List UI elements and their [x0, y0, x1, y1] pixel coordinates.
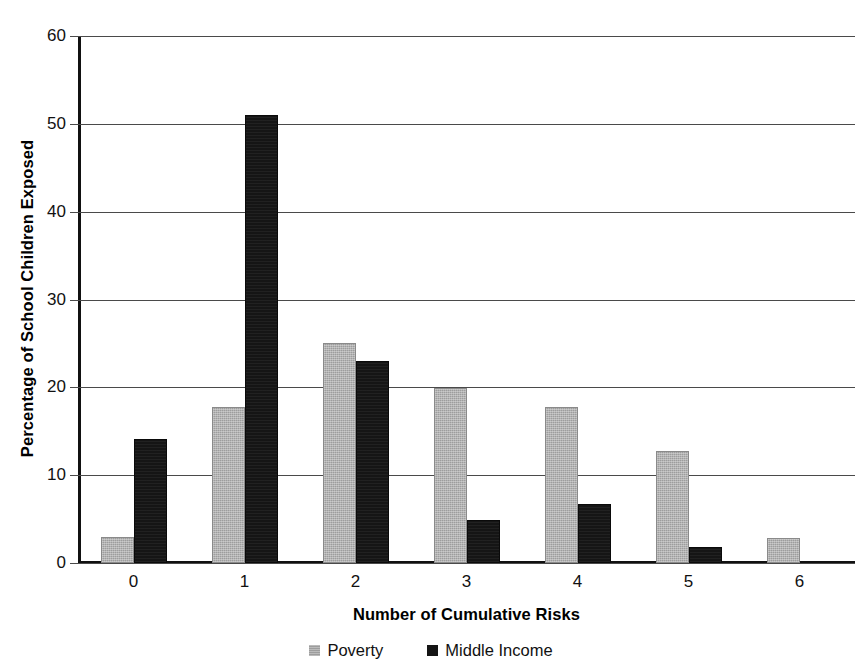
chart-title [0, 0, 862, 3]
bar-middle-income-1 [245, 115, 278, 563]
gridline-40 [78, 212, 855, 213]
bar-middle-income-5 [689, 547, 722, 563]
gridline-50 [78, 124, 855, 125]
y-tick-label-40: 40 [14, 203, 66, 220]
chart-legend: PovertyMiddle Income [0, 641, 862, 659]
y-axis-ticks: 6050403020100 [0, 0, 66, 668]
y-tick-label-20: 20 [14, 378, 66, 395]
x-tick-label-4: 4 [548, 572, 608, 592]
bar-poverty-4 [545, 407, 578, 563]
bar-middle-income-3 [467, 520, 500, 563]
gridline-30 [78, 300, 855, 301]
bar-poverty-5 [656, 451, 689, 563]
bar-poverty-3 [434, 388, 467, 563]
middle-income-swatch-icon [427, 645, 438, 656]
x-tick-label-6: 6 [770, 572, 830, 592]
y-tick-label-30: 30 [14, 291, 66, 308]
legend-label: Poverty [327, 641, 383, 659]
bar-middle-income-0 [134, 439, 167, 563]
legend-item-poverty[interactable]: Poverty [309, 641, 383, 659]
y-tick-label-50: 50 [14, 115, 66, 132]
y-tick-label-0: 0 [14, 554, 66, 571]
bar-poverty-2 [323, 343, 356, 563]
x-axis-title: Number of Cumulative Risks [78, 605, 855, 624]
bar-poverty-6 [767, 538, 800, 563]
bar-poverty-0 [101, 537, 134, 563]
gridline-60 [78, 36, 855, 37]
y-tick-label-10: 10 [14, 466, 66, 483]
gridline-10 [78, 475, 855, 476]
gridline-0 [78, 563, 855, 564]
y-tick-label-60: 60 [14, 27, 66, 44]
poverty-swatch-icon [309, 645, 320, 656]
x-tick-label-5: 5 [659, 572, 719, 592]
bar-chart-figure: Percentage of School Children Exposed 60… [0, 0, 862, 668]
bar-middle-income-2 [356, 361, 389, 563]
legend-item-middle-income[interactable]: Middle Income [427, 641, 552, 659]
gridline-20 [78, 387, 855, 388]
bar-middle-income-4 [578, 504, 611, 563]
x-tick-label-1: 1 [215, 572, 275, 592]
x-tick-label-3: 3 [437, 572, 497, 592]
legend-label: Middle Income [445, 641, 552, 659]
x-axis-tick-labels: 0123456 [78, 572, 855, 598]
x-tick-label-0: 0 [104, 572, 164, 592]
x-tick-label-2: 2 [326, 572, 386, 592]
plot-area [78, 36, 855, 563]
bar-poverty-1 [212, 407, 245, 563]
